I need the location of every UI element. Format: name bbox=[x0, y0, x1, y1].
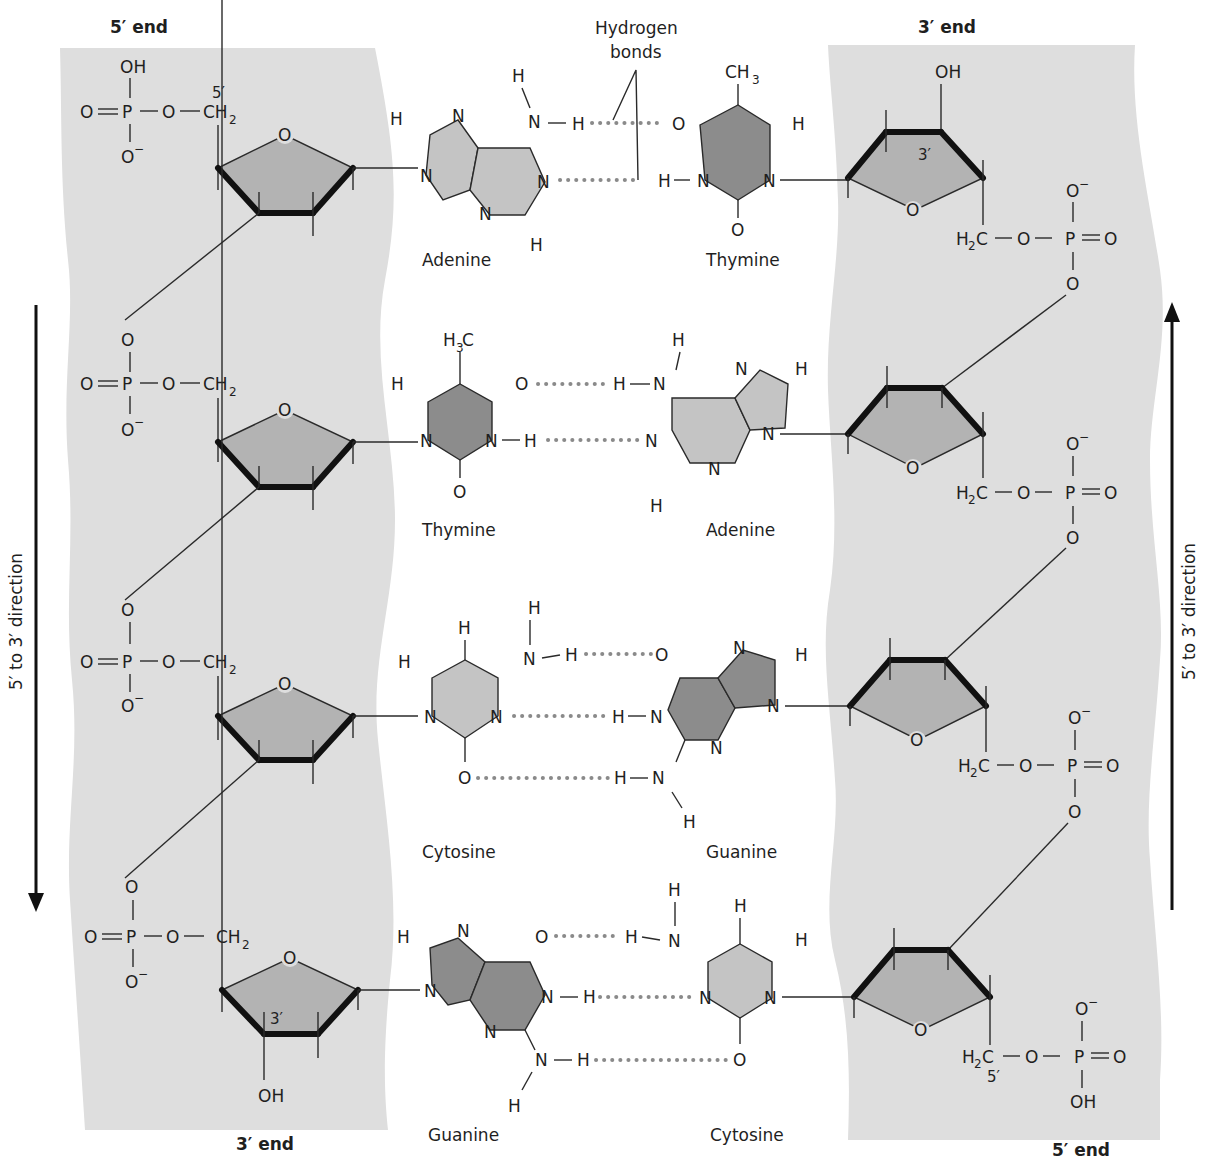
svg-text:H: H bbox=[613, 374, 626, 394]
svg-text:O: O bbox=[1019, 756, 1032, 776]
svg-text:O: O bbox=[121, 147, 134, 167]
svg-text:−: − bbox=[1081, 704, 1091, 718]
svg-text:N: N bbox=[537, 172, 550, 192]
svg-text:O: O bbox=[121, 330, 134, 350]
svg-text:O: O bbox=[731, 220, 744, 240]
svg-text:N: N bbox=[699, 988, 712, 1008]
svg-text:N: N bbox=[535, 1050, 548, 1070]
label-guanine-3: Guanine bbox=[706, 842, 777, 862]
svg-text:−: − bbox=[134, 415, 144, 429]
svg-text:2: 2 bbox=[229, 385, 237, 399]
svg-text:P: P bbox=[1074, 1047, 1084, 1067]
svg-text:C: C bbox=[462, 330, 474, 350]
base-guanine-4: H N N N O N H N H H Guanine bbox=[397, 921, 596, 1145]
svg-text:N: N bbox=[733, 638, 746, 658]
svg-text:P: P bbox=[1065, 483, 1075, 503]
svg-text:N: N bbox=[767, 696, 780, 716]
svg-text:O: O bbox=[1113, 1047, 1126, 1067]
svg-text:N: N bbox=[541, 987, 554, 1007]
svg-text:O: O bbox=[906, 200, 919, 220]
svg-text:N: N bbox=[485, 431, 498, 451]
svg-text:N: N bbox=[650, 707, 663, 727]
svg-text:2: 2 bbox=[968, 493, 976, 507]
svg-text:N: N bbox=[528, 112, 541, 132]
right-bottom-end-label: 5′ end bbox=[1052, 1140, 1110, 1160]
svg-text:O: O bbox=[914, 1020, 927, 1040]
svg-text:2: 2 bbox=[229, 113, 237, 127]
svg-text:−: − bbox=[1079, 177, 1089, 191]
svg-text:O: O bbox=[80, 652, 93, 672]
svg-text:H: H bbox=[398, 652, 411, 672]
svg-text:OH: OH bbox=[258, 1086, 284, 1106]
svg-text:H: H bbox=[565, 645, 578, 665]
svg-text:O: O bbox=[1017, 229, 1030, 249]
svg-text:O: O bbox=[1104, 229, 1117, 249]
svg-text:H: H bbox=[962, 1047, 975, 1067]
svg-text:O: O bbox=[1104, 483, 1117, 503]
svg-text:O: O bbox=[1066, 274, 1079, 294]
svg-text:H: H bbox=[391, 374, 404, 394]
svg-text:P: P bbox=[122, 652, 132, 672]
svg-text:H: H bbox=[583, 987, 596, 1007]
svg-text:H: H bbox=[734, 896, 747, 916]
svg-text:O: O bbox=[80, 374, 93, 394]
svg-text:C: C bbox=[982, 1047, 994, 1067]
svg-text:H: H bbox=[508, 1096, 521, 1116]
svg-text:2: 2 bbox=[974, 1057, 982, 1071]
svg-text:H: H bbox=[795, 645, 808, 665]
svg-text:N: N bbox=[484, 1022, 497, 1042]
svg-text:P: P bbox=[1067, 756, 1077, 776]
svg-text:O: O bbox=[453, 482, 466, 502]
base-adenine-1: H N N N N N H H H Adenine bbox=[390, 66, 585, 270]
svg-text:O: O bbox=[910, 730, 923, 750]
svg-text:N: N bbox=[708, 459, 721, 479]
svg-text:H: H bbox=[530, 235, 543, 255]
svg-text:H: H bbox=[795, 359, 808, 379]
left-direction-arrow bbox=[28, 305, 44, 912]
left-direction-label: 5′ to 3′ direction bbox=[6, 553, 26, 690]
svg-text:H: H bbox=[458, 618, 471, 638]
svg-text:N: N bbox=[457, 921, 470, 941]
svg-text:CH: CH bbox=[216, 927, 241, 947]
svg-text:O: O bbox=[1025, 1047, 1038, 1067]
label-adenine-2: Adenine bbox=[706, 520, 775, 540]
svg-text:H: H bbox=[397, 927, 410, 947]
svg-text:O: O bbox=[1106, 756, 1119, 776]
svg-text:O: O bbox=[672, 114, 685, 134]
svg-text:CH: CH bbox=[203, 102, 228, 122]
svg-text:O: O bbox=[1066, 181, 1079, 201]
svg-text:2: 2 bbox=[968, 239, 976, 253]
svg-text:CH: CH bbox=[203, 652, 228, 672]
svg-text:O: O bbox=[121, 696, 134, 716]
label-adenine-1: Adenine bbox=[422, 250, 491, 270]
svg-text:C: C bbox=[978, 756, 990, 776]
svg-text:N: N bbox=[652, 768, 665, 788]
svg-text:O: O bbox=[1066, 434, 1079, 454]
svg-text:O: O bbox=[535, 927, 548, 947]
svg-text:H: H bbox=[658, 171, 671, 191]
label-cytosine-3: Cytosine bbox=[422, 842, 496, 862]
svg-text:O: O bbox=[733, 1050, 746, 1070]
svg-text:O: O bbox=[125, 972, 138, 992]
callout-leader bbox=[613, 70, 638, 180]
svg-text:N: N bbox=[420, 431, 433, 451]
svg-text:N: N bbox=[424, 707, 437, 727]
left-backbone bbox=[60, 48, 395, 1130]
svg-text:5′: 5′ bbox=[987, 1068, 1001, 1086]
svg-text:H: H bbox=[683, 812, 696, 832]
svg-text:O: O bbox=[162, 102, 175, 122]
svg-text:N: N bbox=[420, 166, 433, 186]
svg-text:H: H bbox=[668, 880, 681, 900]
svg-text:H: H bbox=[390, 109, 403, 129]
right-top-end-label: 3′ end bbox=[918, 17, 976, 37]
svg-text:O: O bbox=[906, 458, 919, 478]
svg-text:H: H bbox=[512, 66, 525, 86]
svg-text:O: O bbox=[1068, 708, 1081, 728]
svg-text:O: O bbox=[1075, 999, 1088, 1019]
callout-bonds: bonds bbox=[610, 42, 662, 62]
right-direction-label: 5′ to 3′ direction bbox=[1179, 543, 1199, 680]
svg-text:O: O bbox=[80, 102, 93, 122]
base-cytosine-4: H H N H H N N O Cytosine bbox=[625, 880, 852, 1145]
svg-text:O: O bbox=[121, 420, 134, 440]
svg-text:N: N bbox=[763, 171, 776, 191]
